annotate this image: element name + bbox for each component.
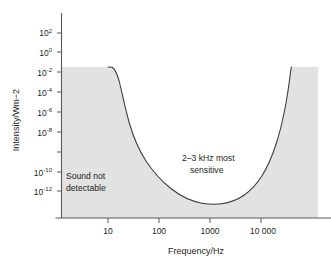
y-tick-label-0: 102 <box>39 28 52 39</box>
y-tick-label-2: 10-2 <box>37 67 52 78</box>
y-tick-label-6: 10-10 <box>34 167 53 178</box>
y-tick-label-3: 10-4 <box>37 87 52 98</box>
annotation-line-2: detectable <box>66 183 106 193</box>
annotation-most-sensitive: 2–3 kHz most sensitive <box>182 153 235 175</box>
x-tick-label-0: 10 <box>103 226 113 236</box>
x-axis-title: Frequency/Hz <box>168 246 225 256</box>
chart-canvas: 102 100 10-2 10-4 10-6 10-8 10-10 10-12 <box>0 0 331 272</box>
annotation-line-1: Sound not <box>66 171 106 181</box>
annotation-line-1: 2–3 kHz most <box>182 153 235 163</box>
y-axis-tick-labels: 102 100 10-2 10-4 10-6 10-8 10-10 10-12 <box>34 28 53 197</box>
x-axis-ticks <box>108 218 261 223</box>
y-axis-ticks <box>57 33 62 191</box>
shaded-inaudible-region <box>62 67 319 218</box>
annotation-line-2: sensitive <box>190 165 224 175</box>
x-tick-label-2: 1000 <box>201 226 220 236</box>
y-tick-label-7: 10-12 <box>34 186 53 197</box>
x-axis-tick-labels: 10 100 1000 10 000 <box>103 226 276 236</box>
y-tick-label-4: 10-6 <box>37 107 52 118</box>
y-axis-title: Intensity/Wm−2 <box>11 89 21 151</box>
x-tick-label-3: 10 000 <box>250 226 276 236</box>
audibility-threshold-chart: 102 100 10-2 10-4 10-6 10-8 10-10 10-12 <box>0 0 331 272</box>
x-tick-label-1: 100 <box>152 226 166 236</box>
y-tick-label-5: 10-8 <box>37 127 52 138</box>
y-tick-label-1: 100 <box>39 47 52 58</box>
